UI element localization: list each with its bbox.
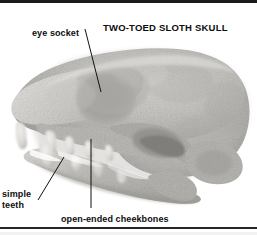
skull-photograph: TWO-TOED SLOTH SKULL eye socket simple t… (0, 3, 257, 227)
annotation-label-eye-socket: eye socket (32, 28, 79, 38)
annotation-label-simple-teeth-line2: teeth (2, 200, 31, 211)
figure-title: TWO-TOED SLOTH SKULL (103, 22, 228, 33)
bottom-strip (0, 232, 257, 235)
annotation-label-simple-teeth: simple teeth (2, 189, 31, 211)
bottom-divider-rule (0, 227, 257, 229)
annotation-label-open-ended-cheekbones: open-ended cheekbones (61, 214, 169, 224)
annotation-label-simple-teeth-line1: simple (2, 189, 31, 200)
figure-page: TWO-TOED SLOTH SKULL eye socket simple t… (0, 0, 257, 235)
